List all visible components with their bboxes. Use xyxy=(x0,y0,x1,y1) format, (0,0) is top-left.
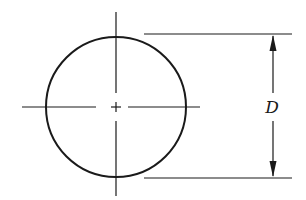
arrow-down-icon xyxy=(270,161,277,177)
arrow-up-icon xyxy=(270,35,277,51)
circle-diameter-diagram: D xyxy=(0,0,306,200)
diameter-label: D xyxy=(264,97,279,117)
center-mark xyxy=(111,102,121,112)
